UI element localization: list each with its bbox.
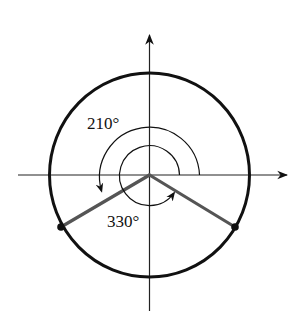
angle-diagram: 210° 330° (0, 0, 303, 329)
label-330: 330° (107, 212, 139, 231)
terminal-ray-330 (150, 175, 236, 227)
point-330 (231, 223, 239, 231)
label-210: 210° (87, 114, 119, 133)
point-210 (57, 223, 65, 231)
